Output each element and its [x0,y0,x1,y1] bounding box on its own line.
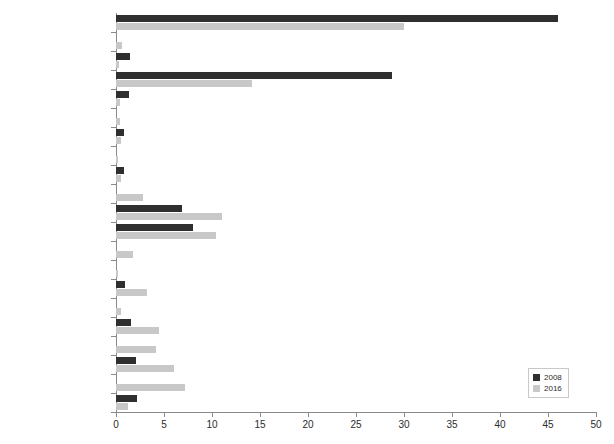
x-axis-tick [404,412,405,417]
category-row: Takeaways [116,355,596,374]
x-axis-tick-label: 10 [206,419,217,430]
category-row: Fish shops [116,165,596,184]
bar-2008 [116,224,193,231]
x-axis-tick-label: 50 [590,419,601,430]
plot-area: BarBuilding servicesBusiness servicesCar… [116,13,596,412]
bar-2016 [116,384,185,391]
bar-2016 [116,156,118,163]
bar-2008 [116,72,392,79]
category-row: Business services [116,51,596,70]
bar-2016 [116,80,252,87]
bar-2016 [116,251,133,258]
bar-2016 [116,403,128,410]
bar-2016 [116,118,120,125]
x-axis-tick-label: 25 [350,419,361,430]
bar-2016 [116,23,404,30]
bar-2016 [116,289,147,296]
bar-2016 [116,175,121,182]
x-axis-tick [308,412,309,417]
category-row: Micro-manufacturers [116,260,596,279]
bar-2008 [116,281,125,288]
x-axis-tick-label: 5 [161,419,167,430]
x-axis-tick [500,412,501,417]
x-axis-tick [452,412,453,417]
bar-2016 [116,308,121,315]
bar-2008 [116,205,182,212]
bar-2008 [116,319,131,326]
bar-2016 [116,232,216,239]
bar-2016 [116,346,156,353]
x-axis-tick [548,412,549,417]
category-row: Bar [116,13,596,32]
legend-item-2008: 2008 [533,372,562,383]
category-row: Car wash [116,70,596,89]
category-row: Community services [116,127,596,146]
category-row: Greengrocers [116,184,596,203]
bar-2008 [116,357,136,364]
category-row: House shops [116,222,596,241]
x-axis-tick [164,412,165,417]
bar-2016 [116,327,159,334]
category-row: Restaurants [116,298,596,317]
category-row: Street braais [116,317,596,336]
category-row: Clothes makers [116,108,596,127]
category-row: Street trade [116,336,596,355]
bar-2016 [116,194,143,201]
bar-chart: BarBuilding servicesBusiness servicesCar… [0,0,614,444]
bar-2016 [116,42,122,49]
x-axis-tick [260,412,261,417]
category-row: Church [116,89,596,108]
legend-label-2016: 2016 [544,384,562,393]
x-axis-tick-label: 35 [446,419,457,430]
legend-item-2016: 2016 [533,383,562,394]
legend-swatch-2016 [533,385,540,392]
category-row: Print shops [116,279,596,298]
x-axis-tick-label: 15 [254,419,265,430]
category-row: Miscellaneous [116,393,596,412]
legend-label-2008: 2008 [544,373,562,382]
legend-swatch-2008 [533,374,540,381]
bar-2008 [116,167,124,174]
x-axis-tick [596,412,597,417]
x-axis-tick-label: 20 [302,419,313,430]
category-row: Entertainment [116,146,596,165]
x-axis-tick-label: 40 [494,419,505,430]
category-row: Hair salons [116,203,596,222]
bar-2016 [116,61,119,68]
bar-2008 [116,53,130,60]
bar-2008 [116,395,137,402]
category-row: Vechicle services [116,374,596,393]
x-axis-tick [356,412,357,417]
category-row: Building services [116,32,596,51]
category-row: Meat sellers [116,241,596,260]
x-axis-tick-label: 45 [542,419,553,430]
legend: 2008 2016 [528,368,569,398]
bar-2008 [116,129,124,136]
x-axis-tick-label: 0 [113,419,119,430]
bar-2016 [116,270,118,277]
x-axis-tick [116,412,117,417]
bar-2016 [116,365,174,372]
bar-2008 [116,15,558,22]
bar-2016 [116,213,222,220]
x-axis-tick [212,412,213,417]
bar-2016 [116,99,120,106]
bar-2008 [116,91,129,98]
x-axis-tick-label: 30 [398,419,409,430]
bar-2016 [116,137,121,144]
